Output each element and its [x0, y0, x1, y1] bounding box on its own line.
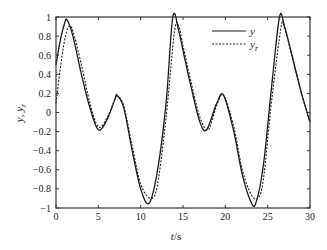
x-axis-label: t/s [171, 230, 181, 242]
legend-label-yr: yr [249, 38, 259, 53]
y-tick-label: −0.4 [33, 145, 51, 156]
x-tick-label: 10 [136, 211, 146, 222]
y-tick-label: −1 [40, 203, 51, 214]
plot-area [56, 13, 310, 206]
x-tick-label: 0 [54, 211, 59, 222]
legend-label-y: y [249, 25, 255, 37]
y-tick-label: 0.6 [39, 50, 52, 61]
x-tick-label: 25 [263, 211, 273, 222]
y-tick-label: −0.8 [33, 183, 51, 194]
y-tick-label: 0.4 [39, 69, 52, 80]
y-tick-label: 0.2 [39, 88, 52, 99]
y-tick-label: 0.8 [39, 31, 52, 42]
x-tick-label: 30 [305, 211, 315, 222]
series-line-y [56, 13, 310, 206]
line-chart: 051015202530 −1−0.8−0.6−0.4−0.200.20.40.… [0, 0, 327, 250]
y-tick-label: −0.6 [33, 164, 51, 175]
y-axis-label: y, yr [13, 103, 28, 123]
y-tick-label: 1 [46, 12, 51, 23]
y-tick-label: −0.2 [33, 126, 51, 137]
x-tick-label: 15 [178, 211, 188, 222]
legend: y yr [212, 25, 259, 53]
x-tick-label: 20 [220, 211, 230, 222]
x-tick-label: 5 [96, 211, 101, 222]
y-tick-label: 0 [46, 107, 51, 118]
